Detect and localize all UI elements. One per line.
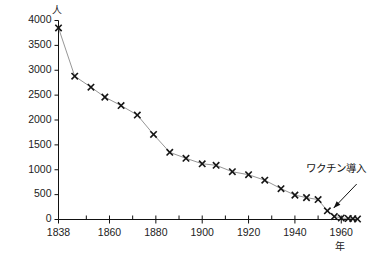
y-axis-tick-labels: 05001000150020002500300035004000 <box>28 13 52 224</box>
y-tick-label: 1500 <box>28 138 52 150</box>
y-tick-label: 3000 <box>28 63 52 75</box>
data-point-marker <box>118 102 124 108</box>
series-markers <box>55 25 360 222</box>
data-point-marker <box>102 94 108 100</box>
x-tick-label: 1900 <box>191 226 215 238</box>
x-axis-minor-ticks <box>86 216 341 220</box>
data-point-marker <box>88 84 94 90</box>
x-tick-label: 1960 <box>330 226 354 238</box>
data-point-marker <box>150 131 156 137</box>
x-tick-label: 1860 <box>98 226 122 238</box>
x-tick-label: 1940 <box>283 226 307 238</box>
data-point-marker <box>324 208 330 214</box>
data-point-marker <box>278 185 284 191</box>
series-line-deaths <box>59 28 358 219</box>
x-tick-label: 1920 <box>237 226 261 238</box>
data-point-marker <box>134 112 140 118</box>
annotation-arrow <box>334 184 357 208</box>
x-axis-tick-labels: 1838186018801900192019401960 <box>47 226 353 238</box>
y-tick-label: 1000 <box>28 163 52 175</box>
x-axis-unit-label: 年 <box>335 240 345 252</box>
y-tick-label: 500 <box>34 187 52 199</box>
y-axis-unit-label: 人 <box>52 5 62 16</box>
annotation-label: ワクチン導入 <box>306 162 367 174</box>
chart-canvas: 05001000150020002500300035004000 1838186… <box>0 0 380 258</box>
y-tick-label: 3500 <box>28 38 52 50</box>
y-tick-label: 0 <box>46 212 52 224</box>
line-chart: 05001000150020002500300035004000 1838186… <box>0 0 380 258</box>
data-point-marker <box>262 177 268 183</box>
y-tick-label: 2500 <box>28 88 52 100</box>
y-tick-label: 4000 <box>28 13 52 25</box>
y-tick-label: 2000 <box>28 113 52 125</box>
data-point-marker <box>183 155 189 161</box>
data-point-marker <box>331 213 337 219</box>
chart-axes <box>59 21 358 220</box>
y-axis-ticks <box>55 21 59 220</box>
x-tick-label: 1880 <box>144 226 168 238</box>
data-point-marker <box>292 192 298 198</box>
x-tick-label: 1838 <box>47 226 71 238</box>
data-point-marker <box>72 73 78 79</box>
data-point-marker <box>167 149 173 155</box>
x-axis-ticks <box>59 220 342 224</box>
